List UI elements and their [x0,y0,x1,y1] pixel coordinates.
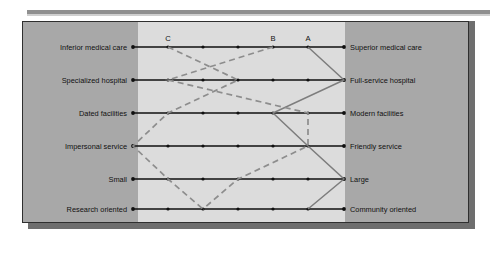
attribute-label-right: Full-service hospital [350,76,416,85]
figure-root: Inferior medical careSuperior medical ca… [0,0,501,254]
scale-tick-dot [166,144,169,147]
scale-tick-dot [271,207,274,210]
scale-tick-dot [201,45,204,48]
scale-tick-dot [271,177,274,180]
scale-tick-dot [201,78,204,81]
axis-endpoint-dot [131,207,135,211]
scale-tick-dot [236,45,239,48]
profile-marker-a: A [305,34,311,43]
scale-tick-dot [201,177,204,180]
scale-tick-dot [236,111,239,114]
attribute-label-right: Large [350,175,369,184]
axis-endpoint-dot [131,111,135,115]
attribute-label-right: Modern facilities [350,109,404,118]
attribute-label-left: Inferior medical care [60,43,127,52]
scale-tick-dot [166,207,169,210]
scale-tick-dot [271,78,274,81]
snake-plot-chart: Inferior medical careSuperior medical ca… [0,0,501,254]
hospital-profile-line-c [133,47,238,209]
axis-endpoint-dot [342,207,346,211]
scale-tick-dot [271,144,274,147]
attribute-label-right: Friendly service [350,142,402,151]
scale-tick-dot [306,78,309,81]
axis-endpoint-dot [131,45,135,49]
attribute-label-left: Specialized hospital [62,76,128,85]
hospital-profile-line-a [273,47,344,209]
attribute-label-left: Dated facilities [79,109,127,118]
hospital-profile-line-b [168,47,308,209]
scale-tick-dot [236,144,239,147]
attribute-label-right: Community oriented [350,205,416,214]
axis-endpoint-dot [131,177,135,181]
scale-tick-dot [306,177,309,180]
attribute-label-right: Superior medical care [350,43,422,52]
axis-endpoint-dot [342,111,346,115]
profile-marker-c: C [165,34,171,43]
scale-tick-dot [236,207,239,210]
attribute-label-left: Research oriented [67,205,127,214]
profile-marker-b: B [270,34,275,43]
axis-endpoint-dot [342,45,346,49]
scale-tick-dot [201,111,204,114]
attribute-label-left: Small [109,175,128,184]
axis-endpoint-dot [342,144,346,148]
attribute-label-left: Impersonal service [65,142,127,151]
axis-endpoint-dot [131,78,135,82]
scale-tick-dot [201,144,204,147]
